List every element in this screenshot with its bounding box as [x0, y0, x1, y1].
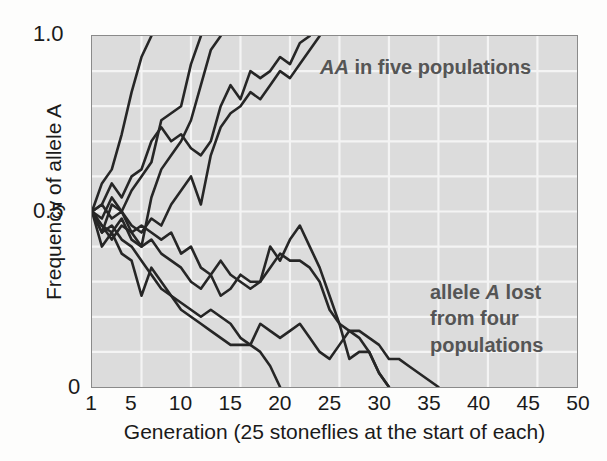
x-tick-label-35: 35 [417, 391, 440, 415]
plot-area: AA in five populations allele A lost fro… [91, 35, 578, 388]
x-tick-label-5: 5 [125, 391, 137, 415]
annotation-loss-line3: populations [430, 332, 543, 358]
annotation-loss-line2: from four [430, 305, 543, 331]
figure-root: 1.0 0.5 0 Frequency of allele A AA in fi… [0, 0, 607, 461]
x-tick-label-45: 45 [517, 391, 540, 415]
annotation-fixation-genotype: AA [320, 56, 349, 78]
annotation-loss-line1-pre: allele [430, 281, 486, 303]
x-tick-label-10: 10 [169, 391, 192, 415]
x-tick-label-25: 25 [318, 391, 341, 415]
annotation-fixation-text: in five populations [349, 56, 531, 78]
x-tick-label-1: 1 [85, 391, 97, 415]
x-tick-label-15: 15 [218, 391, 241, 415]
y-axis-title: Frequency of allele A [42, 52, 66, 352]
x-tick-label-50: 50 [566, 391, 589, 415]
y-tick-label-1.0: 1.0 [33, 21, 64, 47]
annotation-loss-line1-post: lost [500, 281, 541, 303]
annotation-layer: AA in five populations allele A lost fro… [92, 36, 577, 387]
annotation-loss-line1: allele A lost [430, 279, 543, 305]
annotation-loss-allele: A [486, 281, 500, 303]
annotation-loss: allele A lost from four populations [430, 279, 543, 358]
y-tick-label-0: 0 [68, 374, 80, 400]
x-tick-label-30: 30 [368, 391, 391, 415]
x-axis-title: Generation (25 stoneflies at the start o… [91, 420, 578, 444]
x-tick-label-20: 20 [268, 391, 291, 415]
x-tick-label-40: 40 [467, 391, 490, 415]
annotation-fixation: AA in five populations [320, 54, 531, 80]
x-tick-labels: 15101520253035404550 [91, 391, 578, 419]
